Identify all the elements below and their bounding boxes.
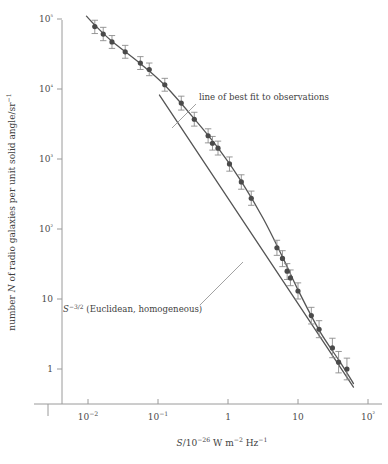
x-axis-title: S/10−26 W m−2 Hz−1 [177, 436, 268, 448]
y-tick-label: 10³ [39, 153, 53, 165]
data-point [249, 196, 254, 201]
data-point [239, 179, 244, 184]
y-tick-label: 10² [39, 223, 53, 235]
x-tick-label: 10² [361, 410, 375, 422]
x-tick-label: 10−2 [78, 410, 99, 422]
data-point [336, 360, 341, 365]
best-fit-curve [86, 16, 353, 383]
data-point [280, 256, 285, 261]
data-point [227, 161, 232, 166]
data-point [288, 275, 293, 280]
data-point [162, 82, 167, 87]
data-point [179, 100, 184, 105]
data-point [123, 49, 128, 54]
data-point [92, 24, 97, 29]
curves-group [86, 16, 353, 387]
data-point [344, 366, 349, 371]
x-tick-label: 10−1 [148, 410, 169, 422]
y-axis-tick-labels: 11010²10³10⁴10⁵ [39, 13, 53, 375]
data-point [285, 269, 290, 274]
x-axis-tick-labels: 10−210−111010² [78, 410, 376, 422]
y-tick-label: 10⁴ [39, 83, 53, 95]
y-tick-label: 10⁵ [39, 13, 53, 25]
chart-canvas: 11010²10³10⁴10⁵ 10−210−111010² line of b… [0, 0, 388, 464]
y-tick-label: 10 [42, 294, 54, 304]
y-axis-ticks [57, 19, 62, 369]
data-point [295, 288, 300, 293]
data-point [330, 345, 335, 350]
data-point [215, 146, 220, 151]
data-point [147, 67, 152, 72]
euclidean-slope-line [159, 95, 353, 387]
data-point [192, 117, 197, 122]
data-point [109, 39, 114, 44]
x-tick-label: 10 [292, 412, 304, 422]
best-fit-annotation-label: line of best fit to observations [199, 92, 329, 102]
error-bars-group [92, 20, 351, 380]
data-point [316, 327, 321, 332]
data-point [309, 313, 314, 318]
radio-source-counts-figure: 11010²10³10⁴10⁵ 10−210−111010² line of b… [0, 0, 388, 464]
axes-group: 11010²10³10⁴10⁵ 10−210−111010² [34, 13, 382, 422]
y-tick-label: 1 [47, 364, 53, 374]
euclidean-annotation-label: S−3/2 (Euclidean, homogeneous) [63, 303, 202, 314]
y-axis-title: number N of radio galaxies per unit soli… [5, 93, 17, 330]
data-point [274, 245, 279, 250]
x-tick-label: 1 [225, 412, 231, 422]
data-point [210, 141, 215, 146]
data-point [101, 31, 106, 36]
euclidean-leader-line [200, 262, 243, 305]
data-point [138, 60, 143, 65]
data-point [206, 133, 211, 138]
